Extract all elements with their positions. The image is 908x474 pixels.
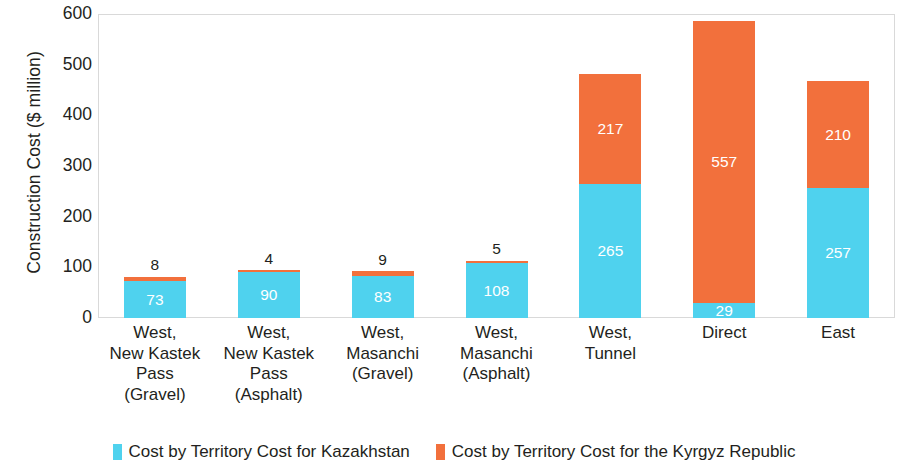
bar-segment-kazakhstan[interactable]: 29 <box>693 303 755 318</box>
x-axis-category-line: Masanchi <box>326 344 440 365</box>
y-axis-tick-400: 400 <box>38 107 92 125</box>
x-axis-category-line: East <box>781 323 895 344</box>
y-axis-tick-200: 200 <box>38 208 92 226</box>
bar-stack[interactable]: 490 <box>238 270 300 318</box>
bar-group[interactable]: 210257 <box>807 14 869 318</box>
bars-layer: 873490983510821726555729210257 <box>98 14 895 318</box>
bar-stack[interactable]: 210257 <box>807 81 869 318</box>
y-axis-tick-0: 0 <box>38 309 92 327</box>
bar-value-label: 8 <box>151 257 160 273</box>
x-axis-category-line: (Asphalt) <box>212 385 326 406</box>
x-axis-category-line: New Kastek <box>98 344 212 365</box>
bar-segment-kazakhstan[interactable]: 257 <box>807 188 869 318</box>
bar-stack[interactable]: 873 <box>124 277 186 318</box>
x-axis-category-line: Tunnel <box>553 344 667 365</box>
x-axis-category-label: Direct <box>667 323 781 344</box>
y-axis-tick-600: 600 <box>38 5 92 23</box>
bar-group[interactable]: 55729 <box>693 14 755 318</box>
bar-stack[interactable]: 983 <box>352 271 414 318</box>
chart-legend: Cost by Territory Cost for KazakhstanCos… <box>0 443 908 460</box>
x-axis-category-label: West,New KastekPass(Asphalt) <box>212 323 326 405</box>
x-axis-category-line: (Gravel) <box>326 364 440 385</box>
x-axis-category-line: (Asphalt) <box>440 364 554 385</box>
legend-label: Cost by Territory Cost for the Kyrgyz Re… <box>452 443 796 460</box>
bar-group[interactable]: 873 <box>124 14 186 318</box>
bar-value-label: 90 <box>260 287 277 303</box>
x-axis-tick-labels: West,New KastekPass(Gravel)West,New Kast… <box>98 323 895 433</box>
bar-value-label: 265 <box>597 243 623 259</box>
legend-swatch-icon <box>113 444 122 460</box>
bar-group[interactable]: 5108 <box>466 14 528 318</box>
legend-label: Cost by Territory Cost for Kazakhstan <box>129 443 410 460</box>
x-axis-category-label: West,Masanchi(Asphalt) <box>440 323 554 385</box>
x-axis-category-label: West,New KastekPass(Gravel) <box>98 323 212 405</box>
legend-swatch-icon <box>436 444 445 460</box>
x-axis-category-line: West, <box>440 323 554 344</box>
bar-segment-kazakhstan[interactable]: 108 <box>466 263 528 318</box>
bar-stack[interactable]: 55729 <box>693 21 755 318</box>
bar-value-label: 108 <box>484 283 510 299</box>
x-axis-category-line: West, <box>553 323 667 344</box>
bar-value-label: 217 <box>597 121 623 137</box>
stacked-bar-chart: Construction Cost ($ million) 6005004003… <box>0 0 908 474</box>
y-axis-tick-100: 100 <box>38 259 92 277</box>
bar-segment-kazakhstan[interactable]: 73 <box>124 281 186 318</box>
y-axis-tick-labels: 6005004003002001000 <box>38 0 92 340</box>
x-axis-category-line: West, <box>212 323 326 344</box>
bar-stack[interactable]: 5108 <box>466 261 528 318</box>
x-axis-category-line: West, <box>98 323 212 344</box>
x-axis-category-line: Pass <box>212 364 326 385</box>
legend-item[interactable]: Cost by Territory Cost for the Kyrgyz Re… <box>436 443 796 460</box>
x-axis-category-line: Masanchi <box>440 344 554 365</box>
bar-value-label: 4 <box>264 251 273 267</box>
y-axis-tick-500: 500 <box>38 56 92 74</box>
bar-value-label: 73 <box>146 292 163 308</box>
bar-segment-kazakhstan[interactable]: 83 <box>352 276 414 318</box>
bar-value-label: 29 <box>716 303 733 319</box>
x-axis-category-line: Pass <box>98 364 212 385</box>
bar-segment-kyrgyz[interactable]: 557 <box>693 21 755 303</box>
x-axis-category-label: West,Tunnel <box>553 323 667 364</box>
bar-segment-kazakhstan[interactable]: 90 <box>238 272 300 318</box>
bar-value-label: 83 <box>374 289 391 305</box>
x-axis-category-line: West, <box>326 323 440 344</box>
bar-value-label: 210 <box>825 127 851 143</box>
y-axis-tick-300: 300 <box>38 157 92 175</box>
x-axis-category-line: New Kastek <box>212 344 326 365</box>
bar-segment-kyrgyz[interactable]: 210 <box>807 81 869 187</box>
bar-group[interactable]: 490 <box>238 14 300 318</box>
bar-value-label: 257 <box>825 245 851 261</box>
bar-value-label: 9 <box>378 252 387 268</box>
bar-value-label: 5 <box>492 241 501 257</box>
x-axis-category-line: (Gravel) <box>98 385 212 406</box>
bar-segment-kazakhstan[interactable]: 265 <box>579 184 641 318</box>
x-axis-category-label: West,Masanchi(Gravel) <box>326 323 440 385</box>
bar-group[interactable]: 983 <box>352 14 414 318</box>
bar-group[interactable]: 217265 <box>579 14 641 318</box>
x-axis-category-line: Direct <box>667 323 781 344</box>
x-axis-category-label: East <box>781 323 895 344</box>
bar-stack[interactable]: 217265 <box>579 74 641 318</box>
bar-segment-kyrgyz[interactable]: 217 <box>579 74 641 184</box>
bar-value-label: 557 <box>711 154 737 170</box>
legend-item[interactable]: Cost by Territory Cost for Kazakhstan <box>113 443 410 460</box>
